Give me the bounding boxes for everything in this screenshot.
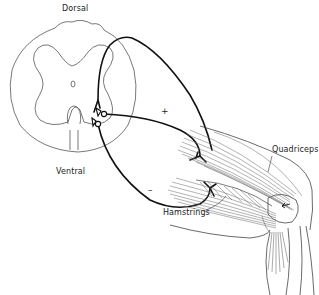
label-hamstrings: Hamstrings — [163, 208, 210, 217]
nerve-pathways — [94, 37, 216, 207]
label-dorsal: Dorsal — [62, 4, 88, 13]
label-ventral: Ventral — [56, 167, 85, 176]
excitatory-sign: + — [161, 106, 169, 116]
inhibitory-sign: – — [148, 185, 153, 195]
quadriceps-muscle — [178, 130, 302, 210]
motor-nerve-quadriceps — [104, 114, 200, 156]
label-quadriceps: Quadriceps — [272, 145, 318, 154]
afferent-nerve — [98, 37, 212, 150]
hamstrings-muscle — [168, 178, 276, 228]
